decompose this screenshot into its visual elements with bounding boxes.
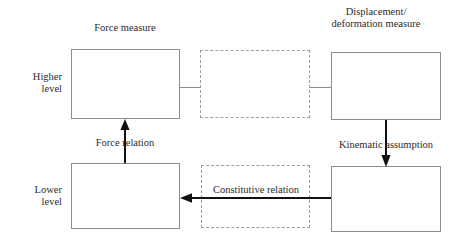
arrow-layer: [0, 0, 464, 248]
force-relation-label: Force relation: [65, 137, 185, 149]
constitutive-relation-label: Constitutive relation: [192, 184, 320, 196]
kinematic-assumption-label: Kinematic assumption: [316, 139, 456, 151]
diagram-canvas: Force measure Displacement/ deformation …: [0, 0, 464, 248]
